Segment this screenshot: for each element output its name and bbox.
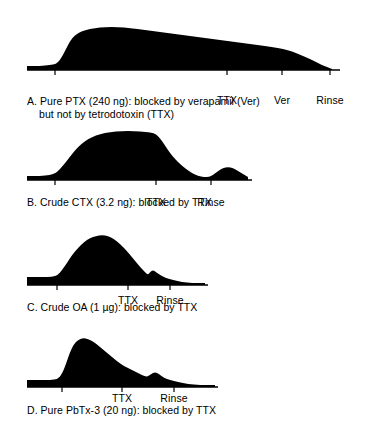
trace-area (27, 235, 205, 285)
recording-trace-a (0, 16, 373, 94)
recording-trace-c (0, 222, 373, 294)
panel-c: TTX Rinse (0, 222, 373, 308)
trace-d-container (0, 322, 373, 392)
recording-trace-b (0, 118, 373, 196)
panel-d: TTX Rinse (0, 322, 373, 406)
trace-area (27, 131, 248, 180)
caption-b-line1: B. Crude CTX (3.2 ng): blocked by TTX (27, 196, 212, 208)
trace-b-container (0, 118, 373, 196)
trace-a-container (0, 16, 373, 94)
caption-d: D. Pure PbTx-3 (20 ng): blocked by TTX (27, 404, 216, 417)
axis-label-a-ver: Ver (274, 94, 290, 106)
axis-label-d-ttx: TTX (112, 392, 132, 404)
axis-label-a-rinse: Rinse (316, 94, 343, 106)
caption-c-line1: C. Crude OA (1 µg): blocked by TTX (27, 301, 197, 313)
trace-area (27, 338, 215, 387)
caption-d-line1: D. Pure PbTx-3 (20 ng): blocked by TTX (27, 404, 216, 416)
caption-b: B. Crude CTX (3.2 ng): blocked by TTX (27, 196, 212, 209)
axis-label-d-rinse: Rinse (160, 392, 187, 404)
caption-c: C. Crude OA (1 µg): blocked by TTX (27, 301, 197, 314)
trace-c-container (0, 222, 373, 294)
recording-trace-d (0, 322, 373, 392)
caption-a-line1: A. Pure PTX (240 ng): blocked by verapam… (27, 95, 260, 107)
trace-area (27, 27, 332, 70)
